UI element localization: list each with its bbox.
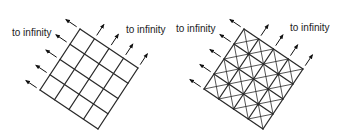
to-infinity-label-right: to infinity bbox=[126, 24, 165, 35]
arrow-icon bbox=[190, 79, 201, 86]
to-infinity-label-left: to infinity bbox=[12, 27, 51, 38]
arrow-icon bbox=[26, 81, 37, 88]
figure-canvas: to infinity to infinity to infinity to i… bbox=[0, 0, 338, 135]
arrow-icon bbox=[66, 20, 77, 27]
grid-lines bbox=[204, 29, 303, 129]
vertex-dot bbox=[257, 103, 260, 106]
arrow-icon bbox=[111, 34, 118, 45]
panel-square-grid: to infinity to infinity bbox=[12, 20, 165, 129]
arrow-icon bbox=[261, 25, 268, 36]
to-infinity-label-right: to infinity bbox=[290, 22, 329, 33]
grid-lines bbox=[40, 29, 138, 129]
arrow-icon bbox=[36, 65, 47, 72]
arrow-icon bbox=[140, 54, 147, 65]
arrow-icon bbox=[290, 45, 297, 56]
panel-triangulated-grid: to infinity to infinity bbox=[176, 19, 329, 129]
arrow-icon bbox=[276, 35, 283, 46]
arrow-icon bbox=[220, 34, 231, 41]
arrow-icon bbox=[210, 49, 221, 56]
arrow-icon bbox=[305, 55, 312, 66]
vertex-dot bbox=[277, 73, 280, 76]
vertex-dot bbox=[227, 83, 230, 86]
arrow-icon bbox=[200, 64, 211, 71]
arrow-icon bbox=[46, 50, 57, 57]
to-infinity-label-left: to infinity bbox=[176, 23, 215, 34]
arrow-icon bbox=[56, 35, 67, 42]
vertex-dot bbox=[247, 53, 250, 56]
arrow-icon bbox=[97, 25, 104, 36]
arrow-icon bbox=[230, 19, 241, 26]
arrow-icon bbox=[126, 44, 133, 55]
